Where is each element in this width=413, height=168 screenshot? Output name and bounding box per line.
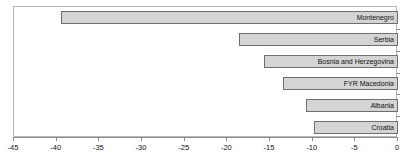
bar[interactable]: Bosnia and Herzegovina bbox=[264, 55, 398, 68]
x-axis-tick bbox=[397, 137, 398, 141]
x-axis-tick bbox=[13, 137, 14, 141]
bar[interactable]: Albania bbox=[306, 99, 398, 112]
x-axis-tick-label: -5 bbox=[351, 143, 358, 152]
x-axis-tick-label: -45 bbox=[8, 143, 19, 152]
x-axis-line bbox=[13, 137, 397, 138]
x-axis-tick bbox=[354, 137, 355, 141]
x-axis-tick bbox=[226, 137, 227, 141]
bar-row: Serbia bbox=[14, 33, 396, 46]
bar-category-label: Albania bbox=[371, 99, 397, 112]
category-axis-tick bbox=[396, 73, 400, 74]
x-axis-tick bbox=[141, 137, 142, 141]
bar-row: Montenegro bbox=[14, 11, 396, 24]
x-axis-tick bbox=[184, 137, 185, 141]
x-axis-tick bbox=[56, 137, 57, 141]
bar-row: Bosnia and Herzegovina bbox=[14, 55, 396, 68]
bar-row: Croatia bbox=[14, 121, 396, 134]
x-axis-tick bbox=[98, 137, 99, 141]
bar[interactable]: Serbia bbox=[239, 33, 398, 46]
category-axis-tick bbox=[396, 51, 400, 52]
category-axis-tick bbox=[396, 29, 400, 30]
x-axis-tick bbox=[269, 137, 270, 141]
bar[interactable]: Croatia bbox=[314, 121, 398, 134]
bar-category-label: FYR Macedonia bbox=[344, 77, 397, 90]
x-axis-tick-label: -30 bbox=[136, 143, 147, 152]
x-axis-tick-label: -20 bbox=[221, 143, 232, 152]
x-axis-tick bbox=[312, 137, 313, 141]
x-axis-tick-label: 0 bbox=[395, 143, 399, 152]
category-axis-tick bbox=[396, 94, 400, 95]
x-axis-tick-label: -15 bbox=[264, 143, 275, 152]
bar-category-label: Serbia bbox=[374, 33, 397, 46]
bar-category-label: Montenegro bbox=[357, 11, 397, 24]
plot-area: MontenegroSerbiaBosnia and HerzegovinaFY… bbox=[13, 6, 397, 137]
x-axis-tick-label: -10 bbox=[306, 143, 317, 152]
bar-category-label: Croatia bbox=[371, 121, 397, 134]
bar-row: Albania bbox=[14, 99, 396, 112]
bar[interactable]: FYR Macedonia bbox=[283, 77, 398, 90]
bar-category-label: Bosnia and Herzegovina bbox=[318, 55, 397, 68]
bar[interactable]: Montenegro bbox=[61, 11, 398, 24]
x-axis-tick-label: -25 bbox=[178, 143, 189, 152]
x-axis-tick-label: -40 bbox=[50, 143, 61, 152]
x-axis-tick-label: -35 bbox=[93, 143, 104, 152]
bar-chart: MontenegroSerbiaBosnia and HerzegovinaFY… bbox=[0, 0, 413, 168]
category-axis-tick bbox=[396, 116, 400, 117]
bar-row: FYR Macedonia bbox=[14, 77, 396, 90]
